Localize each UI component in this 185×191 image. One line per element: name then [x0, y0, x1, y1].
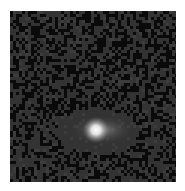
- galaxy-image: [10, 11, 176, 182]
- galaxy-canvas: [10, 11, 176, 182]
